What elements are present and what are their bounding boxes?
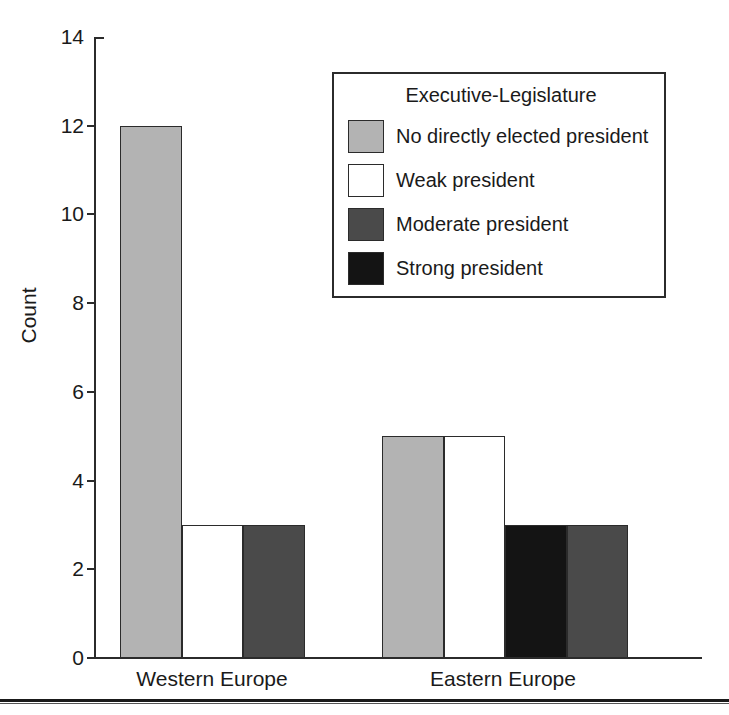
legend-swatch-icon (348, 252, 384, 285)
legend-swatch-icon (348, 120, 384, 153)
y-tick-label-2: 2 (0, 558, 84, 579)
legend-swatch-icon (348, 164, 384, 197)
y-tick-mark-8 (87, 302, 96, 304)
bar (567, 525, 629, 658)
y-tick-mark-2 (87, 568, 96, 570)
bar (120, 126, 182, 658)
y-tick-label-8: 8 (0, 292, 84, 313)
legend-item-label: Strong president (396, 256, 543, 280)
y-tick-label-6: 6 (0, 381, 84, 402)
legend-box: Executive-Legislature No directly electe… (332, 72, 666, 298)
y-axis-title: Count (18, 266, 39, 366)
bar (182, 525, 244, 658)
y-tick-value: 6 (36, 381, 84, 402)
legend-title: Executive-Legislature (334, 84, 668, 106)
y-tick-value: 10 (36, 203, 84, 224)
bar (243, 525, 305, 658)
y-tick-value: 8 (36, 292, 84, 313)
y-tick-label-12: 12 (0, 115, 84, 136)
y-tick-label-10: 10 (0, 203, 84, 224)
x-axis-group-label: Western Europe (102, 667, 322, 691)
bar (382, 436, 444, 658)
bar (505, 525, 567, 658)
y-axis-top-cap (94, 37, 104, 39)
x-axis-group-label: Eastern Europe (393, 667, 613, 691)
y-tick-value: 12 (36, 115, 84, 136)
y-tick-label-14: 14 (0, 26, 84, 47)
y-tick-mark-6 (87, 391, 96, 393)
y-tick-value: 2 (36, 558, 84, 579)
legend-item-label: No directly elected president (396, 124, 648, 148)
bar (444, 436, 506, 658)
y-tick-mark-10 (87, 213, 96, 215)
page-divider-rule-shadow (0, 703, 729, 704)
y-tick-value: 4 (36, 470, 84, 491)
legend-swatch-icon (348, 208, 384, 241)
y-tick-mark-12 (87, 125, 96, 127)
y-tick-label-4: 4 (0, 470, 84, 491)
legend-item-label: Weak president (396, 168, 535, 192)
y-tick-value: 0 (36, 647, 84, 668)
y-tick-value: 14 (36, 26, 84, 47)
bar-chart-figure: 14121086420 Count Western EuropeEastern … (0, 0, 729, 715)
y-tick-label-0: 0 (0, 647, 84, 668)
legend-item-label: Moderate president (396, 212, 568, 236)
y-tick-mark-4 (87, 480, 96, 482)
page-divider-rule (0, 699, 729, 702)
y-axis-line (94, 37, 96, 659)
